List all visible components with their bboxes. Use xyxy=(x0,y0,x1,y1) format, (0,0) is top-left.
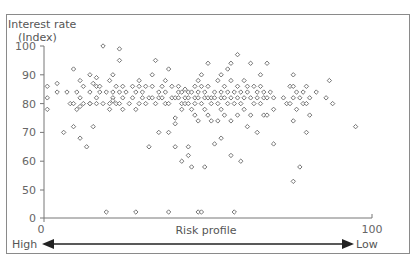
data-point xyxy=(203,107,207,111)
data-point xyxy=(134,107,138,111)
data-point xyxy=(153,101,157,105)
data-point xyxy=(180,90,184,94)
data-point xyxy=(304,84,308,88)
data-point xyxy=(81,101,85,105)
data-point xyxy=(242,96,246,100)
data-point xyxy=(140,90,144,94)
data-point xyxy=(186,153,190,157)
data-point xyxy=(117,58,121,62)
data-point xyxy=(248,96,252,100)
data-point xyxy=(160,84,164,88)
data-point xyxy=(78,96,82,100)
data-point xyxy=(189,107,193,111)
data-point xyxy=(258,73,262,77)
data-point xyxy=(239,159,243,163)
data-point xyxy=(268,90,272,94)
data-point xyxy=(150,96,154,100)
data-point xyxy=(183,87,187,91)
data-point xyxy=(163,90,167,94)
data-point xyxy=(71,124,75,128)
data-point xyxy=(173,145,177,149)
x-axis-title: Risk profile xyxy=(175,224,236,237)
data-point xyxy=(107,107,111,111)
data-point xyxy=(291,73,295,77)
data-point xyxy=(265,96,269,100)
data-point xyxy=(55,90,59,94)
data-point xyxy=(114,84,118,88)
data-point xyxy=(301,90,305,94)
data-point xyxy=(111,99,115,103)
data-point xyxy=(173,116,177,120)
data-point xyxy=(206,61,210,65)
data-point xyxy=(225,101,229,105)
risk-double-arrow xyxy=(42,239,354,249)
y-tick-80: 80 xyxy=(22,98,36,111)
data-point xyxy=(117,90,121,94)
data-point xyxy=(130,96,134,100)
y-axis: 05060708090100 xyxy=(15,40,44,225)
data-point xyxy=(265,113,269,117)
data-point xyxy=(130,84,134,88)
data-point xyxy=(298,96,302,100)
data-point xyxy=(157,90,161,94)
data-point xyxy=(265,61,269,65)
data-point xyxy=(307,96,311,100)
x-axis xyxy=(44,214,372,222)
data-point xyxy=(140,96,144,100)
data-point xyxy=(134,210,138,214)
data-point xyxy=(193,84,197,88)
data-point xyxy=(294,107,298,111)
data-point xyxy=(180,159,184,163)
data-point xyxy=(143,101,147,105)
data-point xyxy=(78,78,82,82)
data-point xyxy=(166,67,170,71)
data-point xyxy=(78,104,82,108)
data-point xyxy=(235,113,239,117)
x-tick-100: 100 xyxy=(362,223,383,236)
data-point xyxy=(229,153,233,157)
data-point xyxy=(225,90,229,94)
data-point xyxy=(271,96,275,100)
data-point xyxy=(176,96,180,100)
data-point xyxy=(117,47,121,51)
data-point xyxy=(157,130,161,134)
data-point xyxy=(143,84,147,88)
data-point xyxy=(193,101,197,105)
data-point xyxy=(212,90,216,94)
data-point xyxy=(225,67,229,71)
data-point xyxy=(203,165,207,169)
data-point xyxy=(88,101,92,105)
y-tick-50: 50 xyxy=(22,184,36,197)
data-point xyxy=(219,73,223,77)
data-point xyxy=(245,124,249,128)
data-point xyxy=(94,96,98,100)
data-point xyxy=(330,101,334,105)
data-point xyxy=(65,90,69,94)
data-point xyxy=(78,136,82,140)
data-point xyxy=(242,78,246,82)
data-point xyxy=(324,96,328,100)
data-point xyxy=(88,73,92,77)
data-point xyxy=(166,101,170,105)
data-point xyxy=(134,90,138,94)
data-point xyxy=(281,96,285,100)
data-point xyxy=(196,119,200,123)
data-point xyxy=(186,145,190,149)
data-point xyxy=(252,84,256,88)
data-point xyxy=(209,119,213,123)
data-point xyxy=(104,210,108,214)
data-point xyxy=(232,101,236,105)
data-point xyxy=(209,101,213,105)
data-point xyxy=(81,84,85,88)
data-point xyxy=(127,101,131,105)
data-point xyxy=(45,84,49,88)
data-point xyxy=(304,101,308,105)
data-point xyxy=(101,44,105,48)
data-point xyxy=(55,81,59,85)
data-point xyxy=(199,73,203,77)
data-point xyxy=(353,124,357,128)
data-point xyxy=(163,78,167,82)
data-point xyxy=(255,130,259,134)
data-point xyxy=(71,67,75,71)
data-point xyxy=(94,75,98,79)
